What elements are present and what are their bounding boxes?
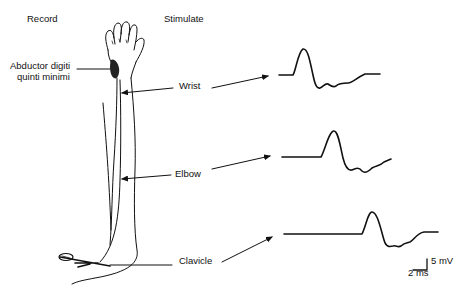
illustration: [0, 0, 465, 291]
scale-bar: [413, 259, 427, 270]
elbow-arm-arrow: [122, 175, 171, 179]
arm-illustration: [59, 22, 144, 284]
elbow-trace-arrow: [212, 156, 270, 169]
wrist-trace: [279, 49, 380, 88]
wrist-arm-arrow: [122, 88, 173, 93]
clavicle-trace: [284, 212, 438, 247]
elbow-trace: [282, 131, 391, 172]
wrist-trace-arrow: [212, 76, 268, 88]
clavicle-trace-arrow: [222, 237, 272, 262]
